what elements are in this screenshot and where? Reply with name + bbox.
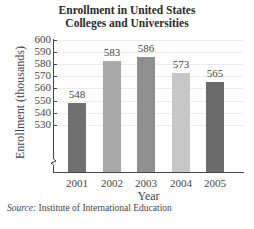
x-axis-title: Year [53,189,244,204]
y-tick-label: 600 [22,34,51,45]
bar-2005 [206,82,224,172]
y-tick-label: 540 [22,107,51,118]
chart-title-line-1: Enrollment in United States [0,4,254,17]
bar-value-label: 583 [94,47,130,58]
y-axis-line [53,39,54,173]
x-axis-line [53,172,244,173]
x-tick-label: 2003 [126,177,166,189]
bar-2002 [103,61,121,172]
x-tick-label: 2005 [195,177,235,189]
bar-2003 [137,57,155,172]
bar-value-label: 586 [128,43,164,54]
y-tick-label: 560 [22,82,51,93]
y-tick-label: 550 [22,95,51,106]
bar-value-label: 573 [163,59,199,70]
bar-value-label: 565 [197,68,233,79]
gridline [54,40,243,41]
bar-2001 [68,103,86,172]
y-tick-label: 570 [22,70,51,81]
axis-break-icon [49,157,58,167]
source-text: Institute of International Education [36,203,172,213]
x-tick-label: 2001 [57,177,97,189]
source-label: Source: [7,203,36,213]
y-tick-label: 590 [22,46,51,57]
source-note: Source: Institute of International Educa… [7,203,172,213]
bar-value-label: 548 [59,89,95,100]
y-tick-label: 530 [22,119,51,130]
y-tick-label: 580 [22,58,51,69]
chart-title-line-2: Colleges and Universities [0,17,254,30]
bar-2004 [172,73,190,172]
